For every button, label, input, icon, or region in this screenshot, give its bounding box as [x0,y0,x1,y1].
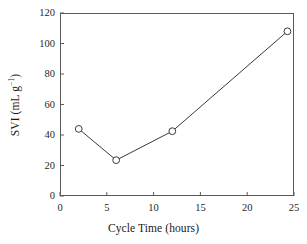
data-point-marker [113,157,120,164]
y-tick-label: 60 [26,99,55,110]
y-axis-title-unit: g [9,85,21,91]
data-point-marker [75,125,82,132]
y-tick-label: 0 [26,191,55,202]
x-tick-label: 10 [148,203,159,214]
y-tick-label: 100 [26,38,55,49]
x-tick-label: 25 [289,203,300,214]
x-tick-marks [60,192,294,196]
y-axis-title-suffix: ) [9,73,21,77]
data-series-line [79,31,288,160]
x-tick-label: 15 [195,203,206,214]
y-tick-label: 40 [26,130,55,141]
y-tick-label: 20 [26,160,55,171]
y-axis-title-prefix: SVI (mL [9,94,21,136]
data-point-marker [284,28,291,35]
figure: 020406080100120 0510152025 SVI (mLg−1) C… [0,0,307,244]
y-tick-label: 80 [26,69,55,80]
x-tick-label: 5 [104,203,109,214]
data-point-markers [75,28,291,164]
x-tick-label: 0 [57,203,62,214]
x-axis-title: Cycle Time (hours) [0,222,307,234]
y-axis-title-exponent: −1 [7,77,16,85]
y-axis-title: SVI (mLg−1) [2,0,28,209]
data-point-marker [169,128,176,135]
y-tick-label: 120 [26,8,55,19]
x-tick-label: 20 [242,203,253,214]
y-tick-marks [60,13,64,196]
